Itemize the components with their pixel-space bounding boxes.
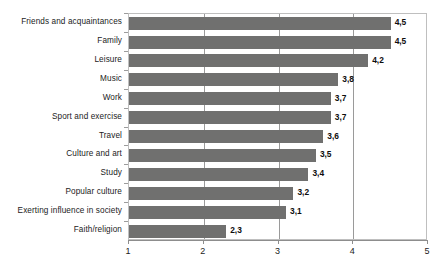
y-axis-tick <box>124 202 128 203</box>
category-label: Popular culture <box>65 183 122 202</box>
x-axis-tick <box>278 240 279 244</box>
bar-value-label: 4,5 <box>395 16 407 29</box>
x-axis-tick <box>352 240 353 244</box>
bar[interactable] <box>129 149 316 162</box>
bar[interactable] <box>129 54 368 67</box>
bar-row: 2,3 <box>129 222 426 241</box>
bar[interactable] <box>129 111 331 124</box>
bar-row: 3,7 <box>129 90 426 109</box>
x-axis-tick <box>203 240 204 244</box>
category-label: Family <box>97 32 122 51</box>
category-label: Faith/religion <box>74 221 122 240</box>
bar-row: 3,7 <box>129 109 426 128</box>
x-axis-tick-label: 5 <box>424 246 429 256</box>
y-axis-tick <box>124 70 128 71</box>
bar[interactable] <box>129 130 323 143</box>
x-axis-tick-label: 1 <box>125 246 130 256</box>
bar[interactable] <box>129 73 338 86</box>
bar-value-label: 3,6 <box>327 130 339 143</box>
bar[interactable] <box>129 206 286 219</box>
bar[interactable] <box>129 225 226 238</box>
bar-row: 3,2 <box>129 184 426 203</box>
y-axis-tick <box>124 164 128 165</box>
x-axis-tick <box>427 240 428 244</box>
category-label: Music <box>100 70 122 89</box>
bar-row: 3,5 <box>129 146 426 165</box>
y-axis-tick <box>124 183 128 184</box>
y-axis-tick <box>124 108 128 109</box>
bar-value-label: 3,8 <box>342 73 354 86</box>
bar-row: 3,4 <box>129 165 426 184</box>
bar-value-label: 3,7 <box>335 92 347 105</box>
category-label: Study <box>101 164 122 183</box>
bar-value-label: 3,2 <box>297 186 309 199</box>
plot-area: 4,54,54,23,83,73,73,63,53,43,23,12,3 <box>128 13 427 240</box>
bar-value-label: 3,5 <box>320 148 332 161</box>
x-axis-tick-label: 4 <box>350 246 355 256</box>
y-axis-tick <box>124 13 128 14</box>
category-label: Culture and art <box>66 145 122 164</box>
bar[interactable] <box>129 36 391 49</box>
bar[interactable] <box>129 92 331 105</box>
y-axis-tick <box>124 32 128 33</box>
bar-value-label: 4,2 <box>372 54 384 67</box>
bar-row: 4,5 <box>129 14 426 33</box>
bar-row: 4,2 <box>129 52 426 71</box>
x-axis-tick-label: 3 <box>275 246 280 256</box>
bar-value-label: 3,1 <box>290 205 302 218</box>
y-axis-tick <box>124 145 128 146</box>
bar-row: 3,1 <box>129 203 426 222</box>
category-label: Work <box>103 89 122 108</box>
bar-value-label: 2,3 <box>230 224 242 237</box>
y-axis-tick <box>124 89 128 90</box>
y-axis-tick <box>124 221 128 222</box>
x-axis-tick-label: 2 <box>200 246 205 256</box>
category-label: Travel <box>99 127 122 146</box>
category-label: Sport and exercise <box>52 108 122 127</box>
y-axis-tick <box>124 127 128 128</box>
bar-row: 4,5 <box>129 33 426 52</box>
category-label: Exerting influence in society <box>18 202 122 221</box>
bar-value-label: 4,5 <box>395 35 407 48</box>
bar-value-label: 3,7 <box>335 111 347 124</box>
category-label: Leisure <box>94 51 122 70</box>
x-axis-tick <box>128 240 129 244</box>
category-label: Friends and acquaintances <box>21 13 122 32</box>
bar-row: 3,6 <box>129 128 426 147</box>
category-axis: Friends and acquaintancesFamilyLeisureMu… <box>0 13 126 240</box>
bar-value-label: 3,4 <box>312 167 324 180</box>
bar-chart: Friends and acquaintancesFamilyLeisureMu… <box>0 0 437 272</box>
y-axis-tick <box>124 51 128 52</box>
bar[interactable] <box>129 168 308 181</box>
bar[interactable] <box>129 187 293 200</box>
bar[interactable] <box>129 17 391 30</box>
bar-row: 3,8 <box>129 71 426 90</box>
